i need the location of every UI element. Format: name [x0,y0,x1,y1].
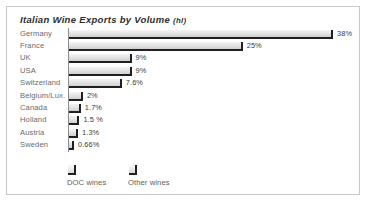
bar-value-label: 9% [136,66,147,76]
bar-fill [69,129,78,136]
bar-row: Austria1.3% [20,127,350,139]
bar-base-shadow [69,123,79,125]
category-label: Germany [20,29,64,39]
bar-base-shadow [69,136,78,138]
bar-value-label: 1.5 % [83,115,102,125]
plot-area: Germany38%France25%UK9%USA9%Switzerland7… [20,28,350,152]
bar [69,67,132,76]
bar-row: Sweden0.66% [20,140,350,152]
bar-value-label: 1.7% [85,103,102,113]
category-label: Switzerland [20,78,64,88]
bar-fill [69,79,122,86]
chart-title-unit: (hl) [173,16,186,25]
bar-value-label: 7.6% [126,78,143,88]
bar-base-shadow [69,74,132,76]
chart-title: Italian Wine Exports by Volume (hl) [20,14,186,25]
bar [69,42,243,51]
legend-item[interactable]: Other wines [129,165,137,173]
bar-base-shadow [69,37,333,39]
bar-row: USA9% [20,65,350,77]
bar-row: Germany38% [20,28,350,40]
bar-fill [69,116,79,123]
category-label: Holland [20,115,64,125]
bar-row: Canada1.7% [20,102,350,114]
bar-value-label: 38% [337,29,352,39]
bar-fill [69,141,74,148]
bar [69,141,74,150]
bar-base-shadow [69,61,132,63]
legend-label: DOC wines [67,178,106,187]
chart-frame: Italian Wine Exports by Volume (hl) Germ… [6,6,360,195]
bar [69,54,132,63]
bar-value-label: 2% [87,91,98,101]
category-label: Canada [20,103,64,113]
bar-fill [69,30,333,37]
bar [69,92,83,101]
category-label: Sweden [20,140,64,150]
category-label: UK [20,53,64,63]
bar-swatch-doc [68,165,76,173]
category-label: Austria [20,128,64,138]
bar-base-shadow [69,49,243,51]
bar-fill [69,92,83,99]
bar-base-shadow [69,148,74,150]
category-label: Belgium/Lux. [20,91,64,101]
bar-row: Switzerland7.6% [20,78,350,90]
bar [69,104,81,113]
bar-fill [69,42,243,49]
bar-row: Belgium/Lux.2% [20,90,350,102]
bar-value-label: 1.3% [82,128,99,138]
bar-value-label: 0.66% [78,140,99,150]
bar-swatch-other [129,165,137,173]
legend-item[interactable]: DOC wines [68,165,76,173]
bar-value-label: 25% [247,41,262,51]
bar [69,30,333,39]
chart-title-text: Italian Wine Exports by Volume [20,14,170,25]
bar-value-label: 9% [136,53,147,63]
bar [69,129,78,138]
bar-row: Holland1.5 % [20,115,350,127]
bar [69,116,79,125]
bar-base-shadow [69,99,83,101]
bar-row: UK9% [20,53,350,65]
legend-label: Other wines [128,178,170,187]
bar [69,79,122,88]
bar-fill [69,54,132,61]
bar-fill [69,67,132,74]
bar-base-shadow [69,86,122,88]
category-label: France [20,41,64,51]
bar-fill [69,104,81,111]
bar-base-shadow [69,111,81,113]
bar-row: France25% [20,40,350,52]
category-label: USA [20,66,64,76]
